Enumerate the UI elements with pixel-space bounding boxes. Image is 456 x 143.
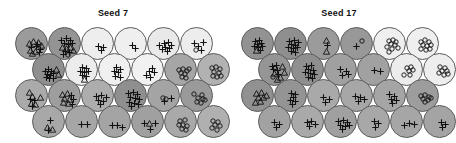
marker-plus — [372, 124, 379, 131]
marker-circle — [427, 46, 433, 52]
som-node[interactable] — [357, 105, 390, 138]
som-panel-seed-7: Seed 7 — [0, 0, 226, 143]
marker-plus — [147, 126, 154, 133]
marker-plus — [353, 43, 360, 50]
marker-plus — [84, 121, 91, 128]
som-node[interactable] — [324, 105, 357, 138]
som-grid-seed-7 — [0, 0, 226, 143]
marker-circle — [183, 127, 189, 133]
marker-plus — [306, 123, 313, 130]
marker-plus — [361, 96, 368, 103]
marker-circle — [445, 71, 451, 77]
marker-plus — [439, 124, 446, 131]
marker-plus — [198, 47, 205, 54]
marker-plus — [257, 47, 264, 54]
som-node[interactable] — [423, 105, 456, 138]
marker-plus — [411, 121, 418, 128]
marker-plus — [289, 101, 296, 108]
marker-plus — [132, 45, 139, 52]
marker-plus — [161, 98, 168, 105]
som-node[interactable] — [197, 105, 230, 138]
marker-triangle — [37, 94, 44, 101]
marker-circle — [386, 49, 392, 55]
som-panel-seed-17: Seed 17 — [226, 0, 452, 143]
marker-plus — [345, 71, 352, 78]
marker-plus — [97, 101, 104, 108]
som-node[interactable] — [291, 105, 324, 138]
marker-plus — [147, 74, 154, 81]
marker-plus — [168, 95, 175, 102]
marker-circle — [407, 72, 413, 78]
marker-plus — [164, 48, 171, 55]
som-node[interactable] — [258, 105, 291, 138]
marker-plus — [119, 124, 126, 131]
marker-plus — [346, 122, 353, 129]
marker-plus — [47, 117, 54, 124]
marker-triangle — [29, 50, 36, 57]
marker-plus — [377, 68, 384, 75]
som-node[interactable] — [32, 105, 65, 138]
marker-plus — [251, 43, 258, 50]
marker-circle — [395, 45, 401, 51]
marker-plus — [312, 121, 319, 128]
som-node[interactable] — [98, 105, 131, 138]
som-node[interactable] — [65, 105, 98, 138]
marker-plus — [389, 100, 396, 107]
marker-circle — [422, 99, 428, 105]
marker-plus — [322, 99, 329, 106]
marker-plus — [273, 124, 280, 131]
marker-circle — [202, 97, 208, 103]
marker-circle — [428, 95, 434, 101]
marker-plus — [34, 41, 41, 48]
marker-plus — [45, 127, 52, 134]
marker-triangle — [323, 48, 330, 55]
marker-plus — [29, 103, 36, 110]
marker-circle — [218, 73, 224, 79]
marker-plus — [98, 47, 105, 54]
marker-circle — [186, 66, 192, 72]
marker-circle — [214, 127, 220, 133]
som-node[interactable] — [164, 105, 197, 138]
marker-plus — [128, 103, 135, 110]
marker-triangle — [257, 98, 264, 105]
marker-plus — [355, 98, 362, 105]
som-grid-seed-17 — [226, 0, 452, 143]
marker-plus — [339, 126, 346, 133]
marker-plus — [43, 74, 50, 81]
som-node[interactable] — [390, 105, 423, 138]
som-node[interactable] — [131, 105, 164, 138]
